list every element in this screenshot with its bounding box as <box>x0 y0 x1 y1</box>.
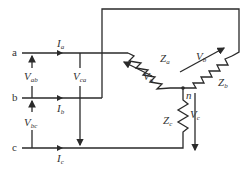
impedance-zb-label: Zb <box>218 76 228 90</box>
current-ic-label: Ic <box>56 152 65 166</box>
voltage-vca-label: Vca <box>73 70 87 84</box>
impedance-za-label: Za <box>160 52 170 66</box>
impedance-zc-label: Zc <box>163 114 173 128</box>
current-ib-label: Ib <box>56 102 65 116</box>
current-markers <box>57 50 63 151</box>
neutral-node <box>181 86 185 90</box>
node-n-label: n <box>186 89 192 101</box>
voltage-vbc-label: Vbc <box>24 116 38 130</box>
voltage-vb-label: Vb <box>196 50 207 64</box>
node-a-label: a <box>12 46 17 58</box>
ib-arrow-icon <box>57 95 63 101</box>
node-b-label: b <box>12 91 18 103</box>
line-c <box>22 138 183 148</box>
current-ia-label: Ia <box>56 37 65 51</box>
ic-arrow-icon <box>57 145 63 151</box>
voltage-vc-label: Vc <box>190 108 201 122</box>
wires <box>22 9 239 148</box>
node-c-label: c <box>12 141 17 153</box>
impedance-za <box>128 53 183 89</box>
voltage-vab-label: Vab <box>24 70 38 84</box>
circuit-diagram: a b c n Ia Ib Ic Vab Vbc Vca Va Vb Vc Za… <box>0 0 252 175</box>
voltage-va-label: Va <box>143 70 154 84</box>
